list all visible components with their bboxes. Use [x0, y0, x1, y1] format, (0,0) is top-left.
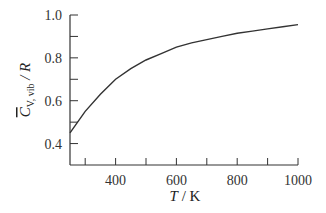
y-axis-label: CV, vib / R	[17, 63, 36, 118]
svg-text:CV, vib / R: CV, vib / R	[17, 63, 36, 118]
x-tick-label: 800	[227, 173, 248, 188]
chart-svg: 4006008001000 0.40.60.81.0 T / K CV, vib…	[0, 0, 326, 213]
data-curve	[70, 25, 298, 133]
x-tick-label: 1000	[284, 173, 312, 188]
x-axis-ticks: 4006008001000	[85, 158, 312, 188]
x-tick-label: 400	[105, 173, 126, 188]
x-axis-label: T / K	[170, 188, 201, 204]
y-tick-label: 0.4	[45, 137, 63, 152]
y-tick-label: 1.0	[45, 8, 63, 23]
y-tick-label: 0.8	[45, 51, 63, 66]
x-tick-label: 600	[166, 173, 187, 188]
y-axis-ticks: 0.40.60.81.0	[45, 8, 79, 152]
y-tick-label: 0.6	[45, 94, 63, 109]
